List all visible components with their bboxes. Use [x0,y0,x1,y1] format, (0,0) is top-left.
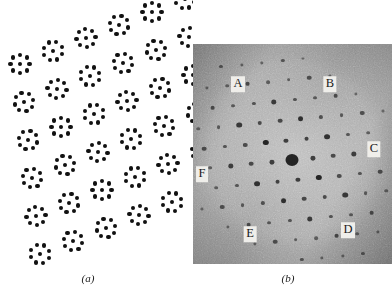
cluster-dot [49,80,53,84]
cluster-dot [35,140,39,144]
cluster-center-dot [96,150,100,154]
cluster-dot [96,120,100,124]
cluster-dot [79,70,83,74]
cluster-dot [113,224,117,228]
cluster-dot [61,94,65,98]
cluster-dot [99,234,103,238]
cluster-dot [42,53,46,57]
cluster-dot [27,92,31,96]
cluster-dot [179,204,183,208]
cluster-center-dot [84,36,88,40]
cluster-dot [76,247,80,251]
cluster-center-dot [59,125,63,129]
cluster-dot [120,133,124,137]
cluster-dot [17,136,21,140]
cluster-center-dot [88,74,92,78]
cluster-dot [68,155,72,159]
cluster-dot [192,0,193,4]
cluster-lattice [0,0,193,268]
cluster-dot [159,156,163,160]
cluster-dot [124,179,128,183]
cluster-dot [165,153,169,157]
cluster-dot [125,18,129,22]
cluster-dot [23,147,27,151]
cluster-dot [105,151,109,155]
cluster-dot [122,31,126,35]
cluster-dot [60,45,64,49]
cluster-dot [28,129,32,133]
cluster-center-dot [30,176,34,180]
cluster-dot [136,166,140,170]
cluster-dot [47,249,51,253]
cluster-dot [127,212,131,216]
cluster-dot [31,146,35,150]
cluster-dot [119,14,123,18]
cluster-dot [184,79,188,83]
cluster-dot [108,21,112,25]
cluster-dot [72,209,76,213]
cluster-dot [164,115,168,119]
cluster-dot [125,145,129,149]
cluster-dot [34,133,38,137]
cluster-dot [167,132,171,136]
cluster-dot [173,168,177,172]
cluster-dot [129,56,133,60]
cluster-dot [133,128,137,132]
cluster-dot [90,29,94,33]
cluster-dot [43,213,47,217]
cluster-dot [188,26,192,30]
cluster-dot [132,146,136,150]
cluster-dot [76,203,80,207]
cluster-dot [131,206,135,210]
cluster-dot [27,62,31,66]
cluster-center-dot [71,239,75,243]
cluster-dot [71,168,75,172]
cluster-dot [143,16,147,20]
cluster-dot [163,94,167,98]
cluster-dot [69,248,73,252]
cluster-dot [119,70,123,74]
cluster-dot [54,40,58,44]
cluster-center-dot [26,138,30,142]
cluster-dot [91,83,95,87]
cluster-center-dot [129,137,133,141]
cluster-dot [66,118,70,122]
cluster-dot [85,65,89,69]
cluster-center-dot [170,200,174,204]
cluster-dot [184,66,188,70]
cluster-dot [132,105,136,109]
panel-a-schematic [0,0,193,268]
cluster-center-dot [117,23,121,27]
cluster-dot [146,43,150,47]
cluster-dot [62,193,66,197]
cluster-center-dot [22,100,26,104]
cluster-dot [114,32,118,36]
cluster-dot [30,105,34,109]
cluster-dot [161,196,165,200]
cluster-dot [96,221,100,225]
cluster-dot [64,88,68,92]
cluster-dot [170,119,174,123]
cluster-dot [100,197,104,201]
cluster-dot [145,50,149,54]
cluster-dot [144,207,148,211]
cluster-dot [13,102,17,106]
cluster-dot [142,178,146,182]
cluster-dot [146,214,150,218]
cluster-dot [21,174,25,178]
cluster-dot [59,116,63,120]
cluster-dot [52,131,56,135]
cluster-dot [34,260,38,264]
cluster-dot [162,53,166,57]
cluster-dot [160,169,164,173]
cluster-dot [95,228,99,232]
cluster-dot [78,43,82,47]
cluster-dot [49,125,53,129]
cluster-dot [174,191,178,195]
cluster-dot [18,53,22,57]
cluster-dot [73,230,77,234]
cluster-dot [138,141,142,145]
cluster-dot [126,69,130,73]
cluster-dot [171,126,175,130]
cluster-dot [38,171,42,175]
